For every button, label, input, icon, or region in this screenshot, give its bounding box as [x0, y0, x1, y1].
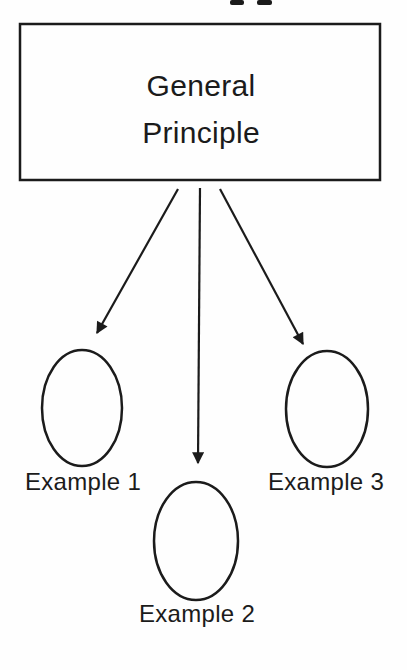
cropped-letter-mark-icon: [257, 0, 272, 5]
general-principle-label-line2: Principle: [142, 116, 260, 149]
example-1-ellipse: [42, 350, 122, 466]
arrow-to-example-3: [220, 189, 303, 344]
cropped-letter-mark-icon: [230, 0, 244, 5]
example-3-ellipse: [286, 351, 368, 467]
example-2-label: Example 2: [139, 600, 255, 627]
example-2-ellipse: [154, 482, 238, 600]
principle-examples-diagram: General Principle Example 1 Example 2 Ex…: [0, 0, 407, 670]
scanned-page: General Principle Example 1 Example 2 Ex…: [0, 0, 407, 670]
general-principle-box: [20, 24, 380, 180]
example-1-label: Example 1: [25, 468, 141, 495]
arrow-to-example-2: [198, 188, 200, 463]
arrow-to-example-1: [97, 189, 178, 333]
example-3-label: Example 3: [268, 468, 384, 495]
general-principle-label-line1: General: [147, 69, 256, 102]
